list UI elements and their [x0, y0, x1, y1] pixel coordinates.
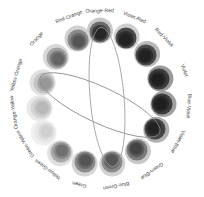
- swatch-label: Blue-Violet: [185, 94, 193, 120]
- swatch-orange: [43, 44, 69, 70]
- swatch-violet: [147, 66, 173, 92]
- swatch-label: Red-Violet: [154, 26, 176, 48]
- swatch-label: Violet: [180, 63, 190, 78]
- swatch-label: Orange-Yellow: [8, 95, 19, 130]
- swatch-tone-circle: [119, 33, 131, 45]
- swatch-label: Violet-Blue: [170, 130, 187, 155]
- swatch-tone-circle: [152, 74, 164, 86]
- swatch-tone-circle: [52, 53, 64, 65]
- swatch-tone-circle: [79, 155, 91, 167]
- swatch-tone-circle: [37, 102, 49, 114]
- swatch-tone-circle: [39, 77, 51, 89]
- swatch-tone-circle: [106, 155, 118, 167]
- swatch-tone-circle: [40, 125, 52, 137]
- swatch-green: [72, 151, 98, 177]
- swatch-label: Green: [71, 180, 87, 189]
- swatch-violet-blue: [143, 117, 169, 143]
- swatch-red-orange: [65, 26, 91, 52]
- swatch-tone-circle: [155, 98, 167, 110]
- swatch-green-blue: [125, 138, 151, 164]
- swatch-label: Green-Blue: [139, 161, 164, 181]
- swatch-violet-red: [114, 24, 140, 50]
- swatch-label: Blue-Green: [103, 181, 130, 191]
- swatch-green-yellow: [31, 120, 57, 146]
- swatch-label: Orange-Red: [85, 7, 114, 13]
- swatch-red-violet: [134, 41, 160, 67]
- swatch-label: Red-Orange: [54, 8, 83, 24]
- swatch-tone-circle: [73, 35, 85, 47]
- swatch-orange-red: [87, 18, 113, 44]
- color-wheel-canvas: Orange-RedViolet-RedRed-VioletVioletBlue…: [0, 0, 204, 197]
- swatch-tone-circle: [56, 145, 68, 157]
- color-wheel-diagram: Orange-RedViolet-RedRed-VioletVioletBlue…: [0, 0, 204, 197]
- swatch-tone-circle: [94, 28, 106, 40]
- swatch-label: Orange: [28, 30, 44, 47]
- swatch-blue-violet: [151, 91, 177, 117]
- swatch-yellow-green: [47, 140, 73, 166]
- swatch-label: Violet-Red: [122, 10, 147, 25]
- swatch-label: Yellow-Orange: [8, 58, 23, 92]
- swatch-yellow-orange: [30, 70, 56, 96]
- swatch-orange-yellow: [27, 95, 53, 121]
- swatch-tone-circle: [139, 50, 151, 62]
- swatch-tone-circle: [130, 143, 142, 155]
